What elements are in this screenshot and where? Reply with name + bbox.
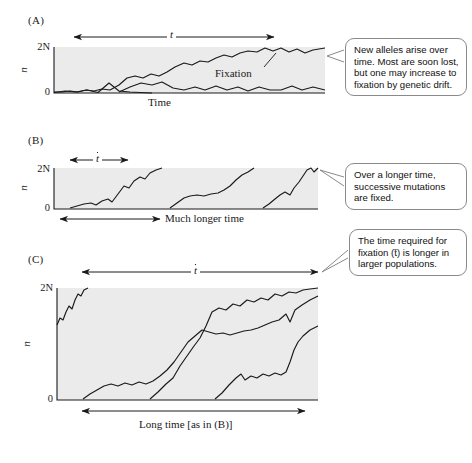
panel-c-y-axis-label: n — [20, 337, 32, 351]
panel-a-plot — [54, 37, 344, 93]
panel-b-x-caption: Much longer time — [165, 212, 244, 224]
panel-c-x-caption: Long time [as in (B)] — [139, 418, 232, 430]
panel-b-plot-background — [54, 168, 318, 209]
panel-b-callout-leader-2 — [320, 170, 344, 186]
panel-b-callout-line-1: Over a longer time, — [354, 169, 459, 181]
panel-a-dimension-label: t — [170, 30, 173, 39]
panel-c-callout-line-2: fixation (t̄) is longer in — [358, 247, 459, 259]
panel-c-callout: The time required for fixation (t̄) is l… — [349, 229, 467, 276]
panel-b-letter: (B) — [28, 134, 44, 146]
panel-a-letter: (A) — [28, 14, 44, 26]
panel-b-callout-leader — [320, 170, 344, 177]
figure-root: (A) 2N 0 n Time t Fixation New alleles a… — [0, 0, 472, 463]
panel-b-plot — [54, 160, 344, 219]
panel-a-callout-line-1: New alleles arise over — [354, 44, 459, 56]
panel-c-callout-leader — [322, 250, 348, 272]
panel-a-callout: New alleles arise over time. Most are so… — [345, 38, 467, 96]
panel-a-callout-line-4: fixation by genetic drift. — [354, 79, 459, 91]
panel-b-callout: Over a longer time, successive mutations… — [345, 163, 467, 210]
panel-a-plot-background — [54, 47, 325, 93]
panel-a-x-caption: Time — [148, 96, 171, 108]
panel-a-callout-line-2: time. Most are soon lost, — [354, 56, 459, 68]
panel-a-ytick-top: 2N — [26, 41, 50, 52]
panel-a-callout-leader-2 — [327, 56, 344, 62]
panel-c-ytick-top: 2N — [29, 282, 53, 293]
panel-c-callout-line-1: The time required for — [358, 235, 459, 247]
panel-c-callout-line-3: larger populations. — [358, 258, 459, 270]
panel-b-ytick-top: 2N — [26, 163, 50, 174]
panel-b-y-axis-label: n — [17, 181, 29, 195]
panel-c-plot-background — [57, 288, 318, 400]
panel-a-callout-leader — [327, 50, 344, 56]
panel-b-callout-line-2: successive mutations — [354, 181, 459, 193]
panel-c-letter: (C) — [28, 253, 44, 265]
panel-c-plot — [57, 250, 348, 411]
panel-a-y-axis-label: n — [17, 63, 29, 77]
panel-b-callout-line-3: are fixed. — [354, 192, 459, 204]
panel-b-ytick-bottom: 0 — [26, 202, 50, 213]
panel-a-callout-line-3: but one may increase to — [354, 67, 459, 79]
panel-b-dimension-label: t — [96, 154, 99, 163]
panel-a-fixation-label: Fixation — [215, 67, 252, 79]
panel-c-callout-leader-2 — [322, 258, 348, 272]
panel-c-ytick-bottom: 0 — [29, 393, 53, 404]
panel-a-ytick-bottom: 0 — [26, 86, 50, 97]
panel-c-dimension-label: t — [194, 266, 197, 275]
